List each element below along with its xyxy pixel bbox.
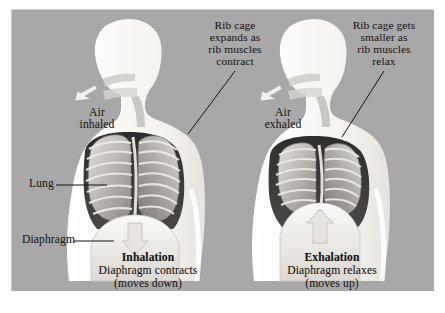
label-inhalation-subtitle: Diaphragm contracts (moves down) [73,265,223,290]
label-ribcage-expands: Rib cage expands as rib muscles contract [179,19,291,67]
label-ribcage-smaller: Rib cage gets smaller as rib muscles rel… [328,19,434,67]
leader-line-ribcage-right [342,71,384,137]
label-lung: Lung [29,178,54,190]
air-inhaled-arrow [75,85,97,101]
air-exhaled-arrow [260,85,282,101]
label-air-inhaled: Air inhaled [60,107,134,132]
label-inhalation-title: Inhalation [73,252,223,264]
label-air-exhaled: Air exhaled [246,107,320,132]
label-diaphragm: Diaphragm [22,234,75,246]
label-exhalation-subtitle: Diaphragm relaxes (moves up) [257,265,407,290]
diagram-panel: Rib cage expands as rib muscles contract… [11,9,434,291]
breathing-diagram-figure: Rib cage expands as rib muscles contract… [0,0,445,313]
label-exhalation-title: Exhalation [257,252,407,264]
leader-line-ribcage-left [188,71,235,134]
